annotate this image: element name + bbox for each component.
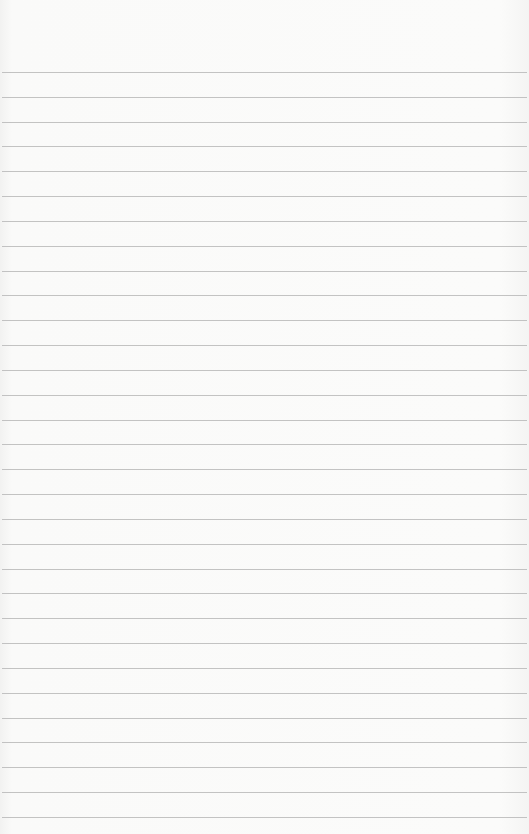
ruled-line xyxy=(2,196,527,197)
ruled-line xyxy=(2,395,527,396)
ruled-line xyxy=(2,817,527,818)
ruled-line xyxy=(2,693,527,694)
ruled-line xyxy=(2,544,527,545)
ruled-line xyxy=(2,569,527,570)
ruled-line xyxy=(2,146,527,147)
ruled-line xyxy=(2,718,527,719)
ruled-line xyxy=(2,742,527,743)
ruled-line xyxy=(2,643,527,644)
ruled-line xyxy=(2,767,527,768)
ruled-line xyxy=(2,444,527,445)
ruled-line xyxy=(2,494,527,495)
ruled-line xyxy=(2,295,527,296)
ruled-line xyxy=(2,668,527,669)
ruled-line xyxy=(2,792,527,793)
lined-paper-sheet xyxy=(0,0,529,834)
ruled-line xyxy=(2,519,527,520)
ruled-line xyxy=(2,320,527,321)
ruled-line xyxy=(2,593,527,594)
ruled-line xyxy=(2,370,527,371)
ruled-line xyxy=(2,618,527,619)
ruled-line xyxy=(2,221,527,222)
ruled-line xyxy=(2,97,527,98)
ruled-line xyxy=(2,72,527,73)
ruled-line xyxy=(2,469,527,470)
ruled-line xyxy=(2,420,527,421)
ruled-line xyxy=(2,246,527,247)
ruled-line xyxy=(2,271,527,272)
ruled-line xyxy=(2,122,527,123)
ruled-line xyxy=(2,345,527,346)
ruled-line xyxy=(2,171,527,172)
